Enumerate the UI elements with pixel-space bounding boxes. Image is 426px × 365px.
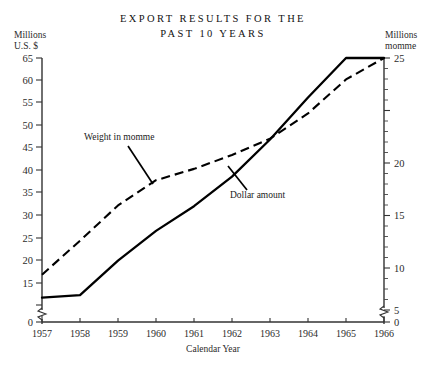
right-tick-10: 10 (394, 263, 405, 274)
left-tick-40: 40 (23, 165, 34, 176)
x-tick-1962: 1962 (222, 328, 242, 339)
left-tick-55: 55 (23, 97, 34, 108)
left-tick-60: 60 (23, 75, 34, 86)
left-tick-15: 15 (23, 278, 34, 289)
left-tick-0: 0 (28, 317, 33, 328)
left-tick-45: 45 (23, 142, 34, 153)
left-tick-50: 50 (23, 120, 34, 131)
left-tick-20: 20 (23, 255, 34, 266)
annotation-weight-label: Weight in momme (84, 132, 154, 142)
left-tick-30: 30 (23, 210, 34, 221)
x-tick-1957: 1957 (32, 328, 52, 339)
annotation-weight-in-momme: Weight in momme (84, 132, 154, 184)
right-tick-0: 0 (394, 317, 399, 328)
x-axis: 1957 1958 1959 1960 1961 1962 1963 1964 … (32, 316, 394, 354)
x-tick-1959: 1959 (108, 328, 128, 339)
left-y-axis: 65 60 55 50 45 40 35 30 25 20 15 0 (23, 53, 47, 328)
right-tick-20: 20 (394, 158, 405, 169)
right-axis-unit-line2: momme (385, 41, 416, 51)
annotation-weight-leader (128, 146, 153, 184)
x-tick-1960: 1960 (146, 328, 166, 339)
right-y-axis: 25 20 15 10 5 0 (380, 53, 405, 328)
x-tick-1964: 1964 (298, 328, 318, 339)
left-tick-25: 25 (23, 233, 34, 244)
export-results-chart: EXPORT RESULTS FOR THE PAST 10 YEARS Mil… (0, 0, 426, 365)
x-tick-1958: 1958 (70, 328, 90, 339)
series-weight-in-momme (42, 58, 384, 275)
x-tick-1963: 1963 (260, 328, 280, 339)
annotation-dollar-label: Dollar amount (230, 190, 286, 200)
left-tick-35: 35 (23, 187, 34, 198)
right-tick-5: 5 (394, 305, 399, 316)
series-dollar-amount (42, 58, 384, 298)
left-axis-unit-line1: Millions (14, 30, 47, 40)
x-tick-1961: 1961 (184, 328, 204, 339)
left-axis-unit-line2: U.S. $ (14, 41, 38, 51)
chart-title-line1: EXPORT RESULTS FOR THE (120, 13, 306, 24)
x-axis-label: Calendar Year (186, 344, 241, 354)
x-tick-1965: 1965 (336, 328, 356, 339)
x-tick-1966: 1966 (374, 328, 394, 339)
left-tick-65: 65 (23, 53, 34, 64)
right-axis-unit-line1: Millions (385, 30, 418, 40)
chart-title-line2: PAST 10 YEARS (160, 28, 266, 39)
chart-svg: EXPORT RESULTS FOR THE PAST 10 YEARS Mil… (0, 0, 426, 365)
right-tick-25: 25 (394, 53, 405, 64)
right-tick-15: 15 (394, 210, 405, 221)
